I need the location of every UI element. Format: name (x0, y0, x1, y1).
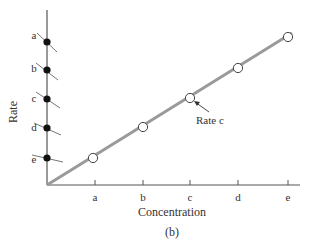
y-axis-title: Rate (6, 101, 20, 123)
x-tick-label-d: d (235, 191, 241, 203)
y-tick-label-c: c (32, 92, 37, 104)
filled-dot-d (43, 124, 50, 131)
x-axis-title: Concentration (138, 205, 206, 219)
y-tick-labels: a b c d e (31, 29, 37, 165)
y-tick-label-e: e (32, 153, 37, 165)
x-tick-label-b: b (140, 191, 146, 203)
annotation-rate-c: Rate c (194, 101, 224, 126)
figure-caption: (b) (165, 225, 179, 239)
x-tick-labels: a b c d e (93, 191, 291, 203)
chart-svg: a b c d e a b c d e (0, 0, 315, 247)
chart-figure: a b c d e a b c d e (0, 0, 315, 247)
open-circle-a (88, 153, 97, 162)
open-circle-d (233, 63, 242, 72)
filled-dot-b (43, 66, 50, 73)
y-tick-label-a: a (32, 29, 37, 41)
open-circle-e (283, 32, 292, 41)
x-tick-label-e: e (286, 191, 291, 203)
filled-dot-e (43, 154, 50, 161)
filled-dot-c (43, 95, 50, 102)
open-circle-b (138, 122, 147, 131)
x-tick-label-c: c (188, 191, 193, 203)
y-tick-label-d: d (31, 121, 37, 133)
open-circle-c (185, 93, 194, 102)
x-ticks (95, 180, 288, 185)
x-tick-label-a: a (93, 191, 98, 203)
rate-line (47, 33, 292, 185)
filled-dot-a (43, 38, 50, 45)
y-tick-label-b: b (31, 62, 37, 74)
annotation-label: Rate c (196, 114, 224, 126)
